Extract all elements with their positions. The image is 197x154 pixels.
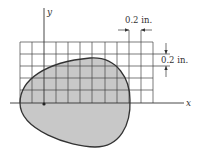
vertical-dimension-label: 0.2 in. xyxy=(161,55,188,65)
irregular-area-shape xyxy=(20,58,130,147)
horizontal-dimension-label: 0.2 in. xyxy=(125,15,152,25)
area-grid-diagram: x y 0.2 in. 0.2 in. xyxy=(0,0,197,154)
origin-point xyxy=(42,102,45,105)
x-axis-label: x xyxy=(186,98,191,108)
y-axis-label: y xyxy=(46,7,53,17)
horizontal-dimension xyxy=(118,28,152,31)
